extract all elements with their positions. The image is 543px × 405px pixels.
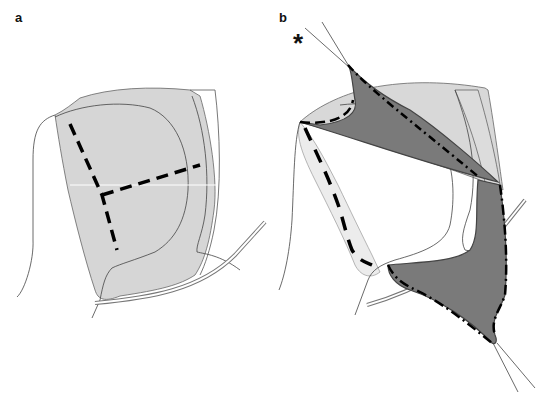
pale-band-b: [299, 122, 380, 276]
dark-region-lower: [388, 180, 506, 344]
diagram-canvas: [0, 0, 543, 405]
shaded-region-a: [55, 88, 215, 299]
outer-contour-left: [17, 115, 55, 297]
panel-a: [17, 88, 265, 318]
panel-b: [279, 22, 535, 392]
